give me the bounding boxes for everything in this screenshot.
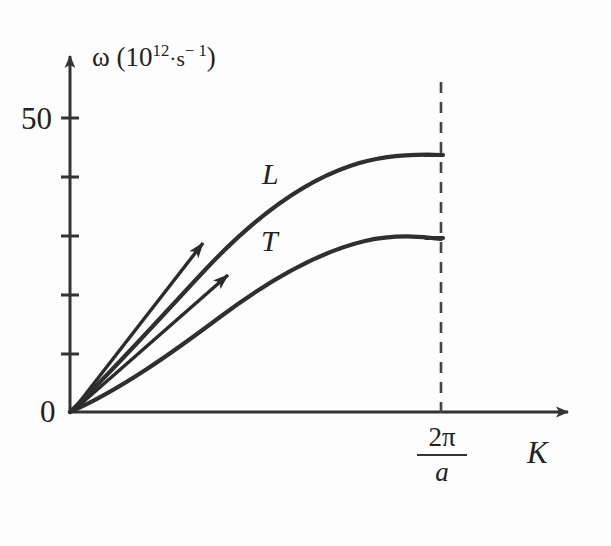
y-tick-label-50: 50 <box>21 103 52 134</box>
y-axis-exponent-minus1: − 1 <box>185 41 207 60</box>
y-axis-exponent-12: 12 <box>153 41 170 60</box>
y-axis-title-close-paren: ) <box>207 42 216 72</box>
slope-arrow-longitudinal-icon <box>74 243 203 409</box>
x-axis-title: K <box>527 437 548 468</box>
zone-boundary-denominator: a <box>405 459 479 486</box>
zone-boundary-numerator: 2π <box>405 424 479 452</box>
curve-label-longitudinal: L <box>262 159 279 189</box>
slope-arrow-transverse-icon <box>74 275 228 410</box>
curve-label-transverse: T <box>261 226 278 256</box>
zone-boundary-tick-label: 2π a <box>405 424 479 486</box>
curve-transverse <box>70 236 441 412</box>
plot-canvas <box>0 0 611 546</box>
y-axis-title-mid: ·s <box>169 47 185 71</box>
fraction-bar <box>417 454 467 456</box>
y-axis-title-text: ω (10 <box>92 42 153 72</box>
y-axis-title: ω (1012·s− 1) <box>92 44 216 71</box>
curve-longitudinal <box>70 155 441 412</box>
y-tick-label-origin: 0 <box>40 396 56 427</box>
phonon-dispersion-figure: ω (1012·s− 1) 50 0 L T 2π a K <box>0 0 611 546</box>
